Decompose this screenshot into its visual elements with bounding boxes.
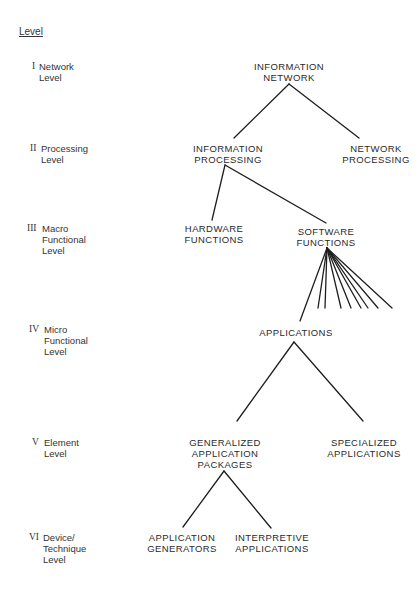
edge-info-processing-to-software — [225, 165, 326, 223]
edge-applications-to-generalized — [237, 342, 294, 421]
level-text: Element Level — [44, 437, 79, 459]
node-information-processing: INFORMATION PROCESSING — [193, 143, 263, 165]
edge-network-to-info-processing — [234, 84, 289, 138]
node-specialized-applications: SPECIALIZED APPLICATIONS — [327, 437, 400, 459]
level-6-label: VI Device/ Technique Level — [29, 532, 86, 565]
level-text: Micro Functional Level — [44, 324, 88, 357]
node-software-functions: SOFTWARE FUNCTIONS — [296, 226, 355, 248]
node-information-network: INFORMATION NETWORK — [254, 61, 324, 83]
level-numeral: III — [27, 223, 42, 256]
level-text: Network Level — [39, 61, 74, 83]
level-1-label: I Network Level — [32, 61, 74, 83]
level-3-label: III Macro Functional Level — [27, 223, 86, 256]
level-text: Processing Level — [41, 143, 88, 165]
level-numeral: II — [30, 143, 41, 165]
level-text: Macro Functional Level — [42, 223, 86, 256]
node-interpretive-applications: INTERPRETIVE APPLICATIONS — [235, 532, 309, 554]
hierarchy-diagram: Level I Network Level II Processing Leve… — [0, 0, 419, 596]
edge-software-to-applications — [300, 248, 327, 321]
fan-line — [327, 248, 392, 308]
connector-lines — [0, 0, 419, 596]
level-2-label: II Processing Level — [30, 143, 88, 165]
level-numeral: VI — [29, 532, 43, 565]
fan-line — [327, 248, 361, 308]
level-text: Device/ Technique Level — [43, 532, 86, 565]
node-hardware-functions: HARDWARE FUNCTIONS — [184, 223, 243, 245]
edge-applications-to-specialized — [294, 342, 363, 421]
level-numeral: IV — [29, 324, 44, 357]
node-network-processing: NETWORK PROCESSING — [342, 143, 409, 165]
edge-info-processing-to-hardware — [212, 165, 225, 220]
node-generalized-application-packages: GENERALIZED APPLICATION PACKAGES — [189, 437, 260, 470]
edge-network-to-network-processing — [289, 84, 359, 138]
level-heading: Level — [19, 26, 43, 37]
node-application-generators: APPLICATION GENERATORS — [147, 532, 217, 554]
level-4-label: IV Micro Functional Level — [29, 324, 88, 357]
edge-generalized-to-generators — [183, 471, 224, 527]
level-numeral: V — [32, 437, 44, 459]
level-numeral: I — [32, 61, 39, 83]
level-5-label: V Element Level — [32, 437, 79, 459]
edge-generalized-to-interpretive — [224, 471, 271, 528]
node-applications: APPLICATIONS — [259, 327, 332, 338]
